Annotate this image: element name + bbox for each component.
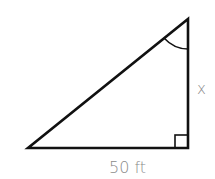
side-x-label: x xyxy=(197,80,206,98)
base-label: 50 ft xyxy=(109,158,146,177)
right-angle-mark xyxy=(175,135,188,148)
angle-arc xyxy=(164,38,188,49)
right-triangle-diagram xyxy=(0,0,215,179)
